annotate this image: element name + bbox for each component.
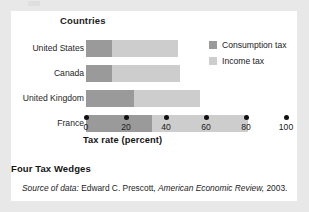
figure-caption: Four Tax Wedges [11, 163, 91, 174]
source-note: Source of data: Edward C. Prescott, Amer… [22, 183, 287, 193]
bar-segment-income [152, 115, 248, 132]
source-year: 2003. [266, 183, 287, 193]
category-axis-title: Countries [60, 15, 106, 26]
bar-segment-consumption [86, 115, 152, 132]
legend-swatch-income-tax [209, 57, 217, 65]
source-publication: American Economic Review, [158, 183, 264, 193]
legend-label-income-tax: Income tax [222, 56, 264, 66]
legend-item-income-tax: Income tax [209, 54, 299, 67]
source-prefix: Source of data: [22, 183, 79, 193]
figure-container: Countries United States Canada United Ki… [0, 0, 309, 212]
x-axis-tick-label: 100 [279, 122, 293, 132]
x-axis-tick-dot [284, 115, 289, 120]
legend-swatch-consumption-tax [209, 41, 217, 49]
bar-segment-income [112, 65, 180, 82]
chart-panel: Countries United States Canada United Ki… [11, 11, 297, 201]
category-label-united-states: United States [32, 40, 84, 57]
source-author: Edward C. Prescott, [81, 183, 155, 193]
bar-segment-consumption [86, 40, 112, 57]
bar-segment-income [134, 90, 200, 107]
bar-chart: Countries United States Canada United Ki… [11, 11, 297, 163]
chart-legend: Consumption tax Income tax [209, 38, 299, 70]
legend-label-consumption-tax: Consumption tax [222, 40, 287, 50]
category-label-france: France [57, 115, 84, 132]
category-label-canada: Canada [54, 65, 84, 82]
bar-segment-income [112, 40, 178, 57]
bar-segment-consumption [86, 65, 112, 82]
x-axis-title: Tax rate (percent) [83, 135, 162, 145]
bar-segment-consumption [86, 90, 134, 107]
legend-item-consumption-tax: Consumption tax [209, 38, 299, 51]
scan-artifact [28, 1, 40, 6]
category-label-united-kingdom: United Kingdom [23, 90, 84, 107]
